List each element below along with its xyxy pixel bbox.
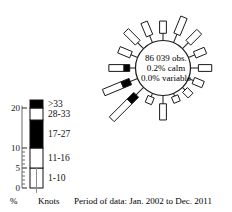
legend-bin-swatch--33	[30, 100, 43, 108]
petal-s	[160, 96, 167, 120]
petal-sw	[109, 87, 143, 121]
legend-axis-label: 0	[16, 183, 21, 193]
petal-wnw	[118, 47, 138, 58]
legend-bin-label-1-10: 1-10	[48, 173, 66, 183]
wind-rose-center-circle	[136, 41, 191, 96]
petal-ese	[188, 77, 204, 87]
petal-se	[182, 87, 193, 98]
legend-bin-label--33: >33	[48, 99, 63, 109]
petal-bin-wsw-0	[102, 82, 123, 96]
petal-ne	[182, 29, 201, 48]
petal-bin-wnw-0	[118, 47, 133, 58]
petal-nw	[124, 29, 144, 49]
petal-ssw	[145, 93, 154, 104]
petal-bin-w-0	[109, 65, 124, 72]
legend-bin-swatch-17-27	[30, 120, 43, 148]
petal-bin-n-0	[160, 21, 167, 33]
wind-rose-plot	[102, 16, 211, 122]
petal-nne	[174, 16, 188, 43]
legend-axis-label: 10	[11, 143, 21, 153]
petal-bin-s-0	[160, 104, 167, 120]
legend-bin-swatch-28-33	[30, 108, 43, 120]
petal-bin-ene-0	[193, 47, 206, 58]
petal-bin-w-1	[124, 65, 130, 72]
petal-bin-e-0	[198, 65, 211, 72]
petal-nnw	[141, 21, 153, 43]
petal-bin-ne-0	[186, 29, 202, 45]
petal-w	[109, 65, 136, 72]
petal-bin-ese-0	[192, 77, 204, 87]
legend-bin-label-11-16: 11-16	[48, 153, 70, 163]
petal-ene	[188, 47, 206, 58]
legend-axis-label: 5	[16, 163, 21, 173]
wind-rose-canvas: 0510201-1011-1617-2728-33>33	[0, 0, 232, 212]
legend-bin-label-17-27: 17-27	[48, 129, 70, 139]
legend-bin-swatch-11-16	[30, 148, 43, 168]
legend-scale: 0510201-1011-1617-2728-33>33	[11, 99, 70, 193]
petal-bin-ssw-0	[145, 95, 154, 104]
petal-wsw	[102, 78, 137, 95]
petal-sse	[171, 93, 180, 103]
petal-n	[160, 21, 167, 40]
legend-axis-label: 20	[11, 103, 21, 113]
legend-bin-label-28-33: 28-33	[48, 109, 70, 119]
petal-bin-nne-0	[174, 16, 187, 36]
wind-rose-figure: 0510201-1011-1617-2728-33>33 86 039 obs.…	[0, 0, 232, 212]
petal-bin-nw-0	[124, 29, 141, 46]
petal-bin-nnw-0	[141, 21, 153, 37]
petal-bin-sw-0	[109, 99, 132, 122]
petal-e	[191, 65, 212, 72]
petal-bin-sse-0	[171, 95, 180, 104]
petal-bin-wsw-1	[121, 78, 132, 88]
